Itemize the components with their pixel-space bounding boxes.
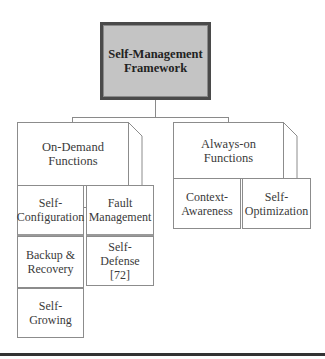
node-label-line2: Management — [89, 210, 152, 224]
node-label-line3: [72] — [100, 268, 139, 282]
group-label-line1: On-Demand — [42, 140, 104, 154]
group-label-line2: Functions — [201, 151, 256, 165]
group-label-line1: Always-on — [201, 137, 256, 151]
node-label-line2: Defense — [100, 254, 139, 268]
node-label-line1: Fault — [89, 196, 152, 210]
node-label-line1: Self- — [17, 196, 84, 210]
node-self-configuration: Self- Configuration — [17, 185, 84, 236]
node-label-line1: Context- — [181, 190, 233, 204]
node-self-growing: Self- Growing — [17, 288, 84, 338]
node-context-awareness: Context- Awareness — [173, 178, 241, 229]
node-fault-management: Fault Management — [86, 185, 154, 236]
node-label-line2: Configuration — [17, 210, 84, 224]
node-label-line2: Optimization — [245, 204, 308, 218]
group-on-demand-functions: On-Demand Functions — [17, 122, 129, 186]
node-backup-recovery: Backup & Recovery — [17, 236, 84, 288]
group-label-line2: Functions — [42, 154, 104, 168]
node-label-line2: Awareness — [181, 204, 233, 218]
bottom-rule-divider — [0, 353, 325, 356]
node-label-line1: Self- — [245, 190, 308, 204]
node-label-line2: Growing — [29, 313, 72, 327]
node-self-optimization: Self- Optimization — [242, 178, 311, 229]
node-self-defense: Self- Defense [72] — [86, 236, 154, 286]
group-always-on-functions: Always-on Functions — [173, 122, 284, 179]
node-label-line1: Self- — [29, 299, 72, 313]
node-label-line2: Recovery — [26, 262, 75, 276]
node-label-line1: Self- — [100, 240, 139, 254]
node-label-line1: Backup & — [26, 248, 75, 262]
